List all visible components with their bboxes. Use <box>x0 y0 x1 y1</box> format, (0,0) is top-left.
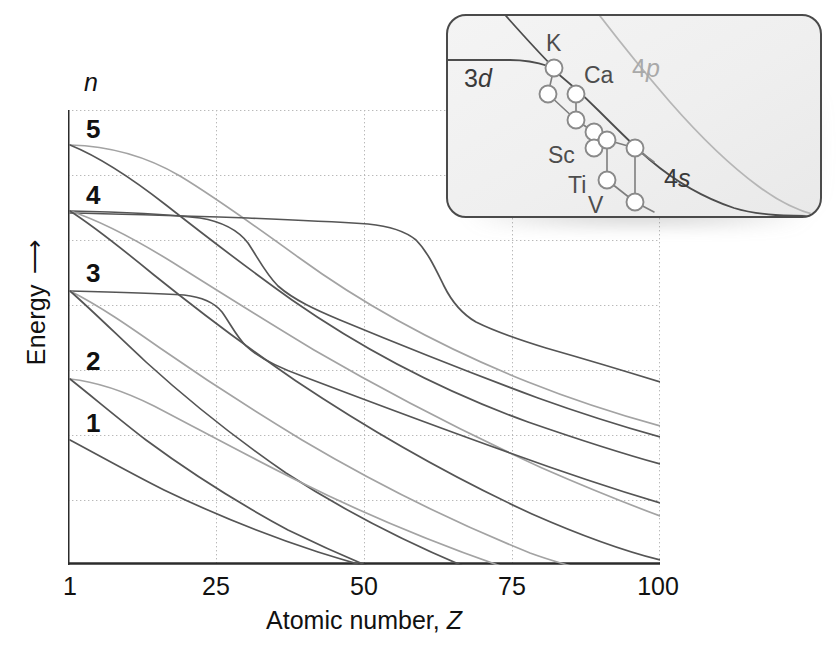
level-label-4: 4 <box>86 180 100 211</box>
x-axis-title: Atomic number, Z <box>68 606 660 635</box>
up-arrow-icon: ⟶ <box>21 240 49 284</box>
inset-marker <box>546 60 563 77</box>
inset-element-V: V <box>588 192 603 218</box>
level-label-5: 5 <box>86 114 100 145</box>
inset-element-Sc: Sc <box>548 142 575 169</box>
x-axis-ticks: 1 25 50 75 100 <box>0 572 839 604</box>
inset-element-Ti: Ti <box>568 172 586 199</box>
inset-marker <box>627 194 644 211</box>
inset-element-Ca: Ca <box>584 62 613 89</box>
inset-curve-3d-flat <box>448 60 548 66</box>
inset-marker <box>540 86 557 103</box>
inset-element-K: K <box>546 30 561 57</box>
inset-marker <box>599 172 616 189</box>
inset-marker <box>568 86 585 103</box>
y-axis-label-group: Energy⟶ <box>8 188 58 428</box>
inset-label-3d-number: 3 <box>464 64 478 92</box>
y-axis-label: Energy⟶ <box>22 183 51 423</box>
y-axis-label-text: Energy <box>22 284 50 365</box>
inset-label-4s-number: 4 <box>664 164 678 192</box>
inset-marker <box>568 112 585 129</box>
x-axis-title-text: Atomic number, <box>266 606 447 634</box>
orbital-energy-figure: Energy⟶ n <box>0 0 839 648</box>
quantum-number-header: n <box>84 68 98 97</box>
x-tick-1: 1 <box>63 572 77 601</box>
inset-label-4s: 4s <box>664 164 690 193</box>
inset-label-3d-orbital: d <box>478 64 492 92</box>
level-label-2: 2 <box>86 346 100 377</box>
x-axis-title-symbol: Z <box>447 606 462 634</box>
x-tick-100: 100 <box>637 572 679 601</box>
level-label-3: 3 <box>86 258 100 289</box>
x-tick-75: 75 <box>498 572 526 601</box>
inset-label-4p: 4p <box>632 54 660 83</box>
inset-svg <box>448 16 820 216</box>
inset-panel: 3d 4p 4s K Ca Sc Ti V <box>446 14 822 218</box>
x-tick-50: 50 <box>350 572 378 601</box>
inset-marker <box>599 132 616 149</box>
curve-3p <box>70 291 660 565</box>
inset-marker <box>627 140 644 157</box>
inset-label-4p-number: 4 <box>632 54 646 82</box>
inset-label-4p-orbital: p <box>646 54 660 82</box>
inset-curve-4p <box>600 16 820 216</box>
x-tick-25: 25 <box>202 572 230 601</box>
level-label-1: 1 <box>86 408 100 439</box>
inset-label-4s-orbital: s <box>678 164 691 192</box>
curve-3s <box>70 291 660 565</box>
inset-label-3d: 3d <box>464 64 492 93</box>
